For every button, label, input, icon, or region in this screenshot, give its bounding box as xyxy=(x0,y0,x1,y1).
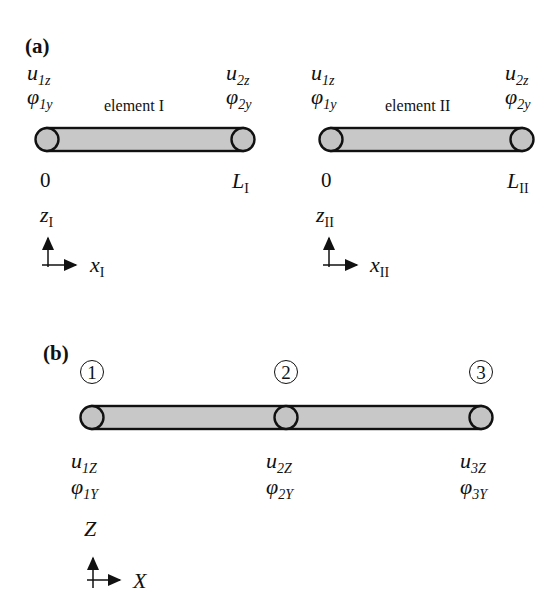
panel-a-label: (a) xyxy=(25,36,50,57)
assembled-beam xyxy=(81,406,493,429)
element-1-z-axis-label: zI xyxy=(40,204,53,230)
element-2-left-phi-label: φ1y xyxy=(311,86,336,112)
node-3-u-label: u3Z xyxy=(460,450,486,476)
node-1-u-label: u1Z xyxy=(71,450,97,476)
element-2-name: element II xyxy=(385,98,450,114)
node-2-marker: 2 xyxy=(274,360,298,384)
element-1-x-axis-label: xI xyxy=(90,254,104,280)
node-3-phi-label: φ3Y xyxy=(460,476,487,502)
element-2-start-coord: 0 xyxy=(321,170,332,191)
element-1-length-label: LI xyxy=(232,170,249,196)
node-1-marker: 1 xyxy=(80,360,104,384)
node-3-marker: 3 xyxy=(469,360,493,384)
diagram-canvas xyxy=(0,0,559,602)
axes-icon-global xyxy=(87,558,120,588)
axes-icon-element-2 xyxy=(323,238,357,267)
element-1-right-phi-label: φ2y xyxy=(226,86,251,112)
element-1-name: element I xyxy=(104,98,164,114)
global-x-axis-label: X xyxy=(133,570,146,592)
axes-icon-element-1 xyxy=(42,238,76,267)
element-2-right-phi-label: φ2y xyxy=(505,86,530,112)
element-2-x-axis-label: xII xyxy=(370,254,389,280)
element-2-z-axis-label: zII xyxy=(316,204,334,230)
node-2-u-label: u2Z xyxy=(266,450,292,476)
element-1-left-phi-label: φ1y xyxy=(27,86,52,112)
element-1-start-coord: 0 xyxy=(40,170,51,191)
global-z-axis-label: Z xyxy=(84,518,96,540)
node-1-phi-label: φ1Y xyxy=(71,476,98,502)
node-2-phi-label: φ2Y xyxy=(266,476,293,502)
panel-b-label: (b) xyxy=(43,343,69,364)
beam-element-2 xyxy=(320,128,534,151)
element-2-length-label: LII xyxy=(507,170,529,196)
beam-element-1 xyxy=(36,128,255,151)
